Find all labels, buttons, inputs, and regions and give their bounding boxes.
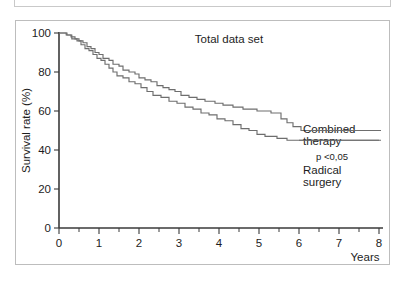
chart-title: Total data set: [195, 33, 264, 45]
y-tick-label: 40: [38, 144, 51, 156]
x-tick-label: 5: [256, 237, 262, 249]
y-tick-label: 20: [38, 183, 51, 195]
x-tick-label: 8: [376, 237, 382, 249]
y-axis-title: Survival rate (%): [20, 88, 32, 173]
survival-chart: 020406080100012345678 Total data setSurv…: [16, 21, 391, 266]
y-tick-label: 60: [38, 105, 51, 117]
y-tick-label: 0: [45, 222, 51, 234]
survival-curve-combined-therapy: [59, 33, 379, 131]
x-tick-label: 2: [136, 237, 142, 249]
x-tick-label: 3: [176, 237, 182, 249]
figure-panel: 020406080100012345678 Total data setSurv…: [15, 20, 390, 265]
x-tick-label: 7: [336, 237, 342, 249]
radical-surgery-label-line2: surgery: [303, 176, 342, 188]
x-axis-title: Years: [351, 251, 380, 263]
x-tick-label: 0: [56, 237, 62, 249]
radical-surgery-label-line1: Radical: [303, 164, 341, 176]
top-panel-strip: [14, 0, 391, 7]
figure-page: 020406080100012345678 Total data setSurv…: [0, 0, 407, 284]
combined-therapy-label-line2: therapy: [303, 135, 342, 147]
x-tick-label: 4: [216, 237, 223, 249]
x-tick-label: 1: [96, 237, 102, 249]
x-tick-label: 6: [296, 237, 302, 249]
p-value-label: p <0,05: [316, 151, 348, 162]
combined-therapy-label-line1: Combined: [303, 123, 355, 135]
y-tick-label: 100: [32, 27, 51, 39]
y-tick-label: 80: [38, 66, 51, 78]
